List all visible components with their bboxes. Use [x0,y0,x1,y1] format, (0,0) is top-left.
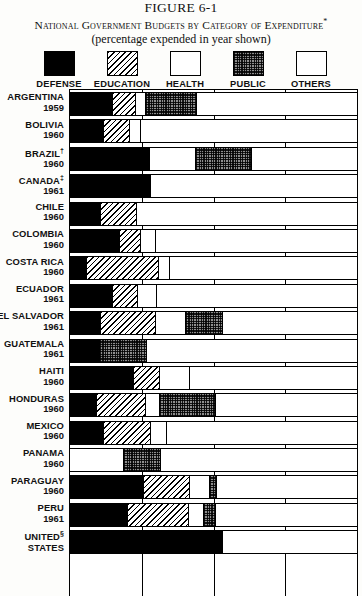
bar-segment-defense [70,93,112,115]
bar-row [70,421,357,445]
plot-area [69,89,358,596]
bar-segment-public_works [99,340,146,362]
row-label-united-states: UNITED§STATES [0,527,68,554]
bar-segment-defense [70,175,150,197]
bar-segment-education [133,367,159,389]
bar-segment-others [216,476,357,498]
bar-segment-health [149,148,195,170]
bar-segment-education [96,394,145,416]
legend-label-education: EDUCATION [94,79,150,90]
figure-title: National Government Budgets by Category … [0,15,362,32]
row-label-haiti: HAITI1960 [0,363,68,390]
bar-segment-education [103,120,129,142]
bar-segment-others [215,504,357,526]
bar-row [70,92,357,116]
row-label-costa-rica: COSTA RICA1960 [0,253,68,280]
bar-segment-education [103,422,150,444]
bar-segment-others [155,230,357,252]
bar-segment-defense [70,120,103,142]
row-year: 1960 [43,159,64,169]
row-year: 1961 [43,514,64,524]
row-year: 1960 [43,212,64,222]
bar-segment-others [196,93,357,115]
row-year: 1961 [43,294,64,304]
bar-row [70,284,357,308]
bar-segment-education [112,285,138,307]
row-label-argentina: ARGENTINA1959 [0,89,68,116]
row-label-bolivia: BOLIVIA1960 [0,116,68,143]
bar-segment-defense [70,148,149,170]
bar-segment-others [146,340,357,362]
bar-segment-others [160,449,357,471]
row-country-name: CANADA‡ [19,173,64,187]
bar-segment-education [112,93,135,115]
bar-segment-others [215,394,357,416]
bar-row [70,202,357,226]
legend-label-health: HEALTH [166,79,204,90]
bar-segment-public_works [185,312,222,334]
row-year: 1961 [43,186,64,196]
bar-segment-others [169,257,357,279]
row-footnote-marker: ‡ [60,174,64,181]
figure-title-text: National Government Budgets by Category … [35,19,324,31]
bar-row [70,475,357,499]
bar-row [70,147,357,171]
row-year: 1961 [43,322,64,332]
bar-segment-public_works [203,504,214,526]
row-year: 1959 [43,103,64,113]
legend-label-others: OTHERS [291,79,331,90]
education-swatch-icon [107,51,138,76]
row-year: 1960 [43,486,64,496]
bar-segment-others [222,531,357,553]
bar-segment-health [188,504,204,526]
bar-segment-public_works [145,93,197,115]
row-label-guatemala: GUATEMALA1961 [0,336,68,363]
row-year: 1960 [43,267,64,277]
figure-header: FIGURE 6-1 National Government Budgets b… [0,0,362,47]
bar-segment-others [251,148,357,170]
row-label-mexico: MEXICO1960 [0,418,68,445]
bar-segment-education [86,257,158,279]
bar-segment-defense [70,285,112,307]
figure-number: FIGURE 6-1 [0,1,362,15]
bar-row [70,393,357,417]
row-year: 1961 [43,349,64,359]
bar-segment-defense [70,340,99,362]
row-label-el-salvador: EL SALVADOR1961 [0,308,68,335]
bar-segment-others [136,203,357,225]
bar-segment-health [159,367,189,389]
others-swatch-icon [296,51,327,76]
figure-subtitle: (percentage expended in year shown) [0,32,362,47]
row-country-name: BRAZIL† [25,146,64,160]
bar-segment-defense [70,531,222,553]
bar-segment-health [70,449,123,471]
row-label-panama: PANAMA1960 [0,445,68,472]
bar-segment-defense [70,230,119,252]
bar-segment-defense [70,422,103,444]
bar-segment-education [100,203,136,225]
bar-segment-health [158,257,169,279]
bar-row [70,119,357,143]
health-swatch-icon [170,51,201,76]
bar-row [70,448,357,472]
row-country-name: PERU [38,503,64,513]
bar-segment-others [222,312,357,334]
bar-segment-public_works [209,476,216,498]
row-footnote-marker: † [60,147,64,154]
bar-segment-defense [70,312,100,334]
row-label-brazil: BRAZIL†1960 [0,144,68,171]
row-year: 1960 [43,377,64,387]
row-label-chile: CHILE1960 [0,199,68,226]
bar-segment-health [140,230,154,252]
row-label-paraguay: PARAGUAY1960 [0,472,68,499]
bar-segment-health [135,93,145,115]
bar-segment-health [137,285,156,307]
bar-segment-defense [70,476,143,498]
bar-segment-public_works [195,148,251,170]
legend-label-defense: DEFENSE [36,79,81,90]
bar-row [70,530,357,554]
bar-segment-health [129,120,140,142]
bar-segment-health [155,312,185,334]
bar-segment-health [150,422,166,444]
defense-swatch-icon [44,51,75,76]
